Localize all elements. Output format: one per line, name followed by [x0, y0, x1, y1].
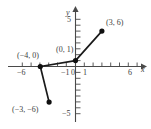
point-label-3-6: (3, 6) [106, 19, 123, 27]
y-tick-label-neg5: −5 [62, 110, 71, 118]
x-axis-label: x [141, 66, 145, 74]
point-label-neg3-neg6: (−3, −6) [12, 106, 38, 114]
data-point-marker [99, 29, 104, 34]
x-tick-label-1: 1 [83, 69, 87, 77]
coordinate-plane-figure: y x 5 −5 −6 −1 0 1 6 (−3, −6) (−4, 0) (0… [0, 0, 151, 129]
x-tick-label-0: 0 [71, 69, 75, 77]
x-tick-label-neg6: −6 [17, 69, 26, 77]
x-tick-label-neg1: −1 [61, 69, 70, 77]
data-point-marker [38, 64, 43, 69]
data-point-marker [47, 100, 52, 105]
point-label-0-1: (0, 1) [56, 46, 73, 54]
x-tick-label-6: 6 [128, 69, 132, 77]
data-point-marker [73, 58, 78, 63]
point-label-neg4-0: (−4, 0) [17, 52, 39, 60]
y-axis-arrow-icon [72, 6, 78, 12]
y-tick-label-5: 5 [67, 16, 71, 24]
